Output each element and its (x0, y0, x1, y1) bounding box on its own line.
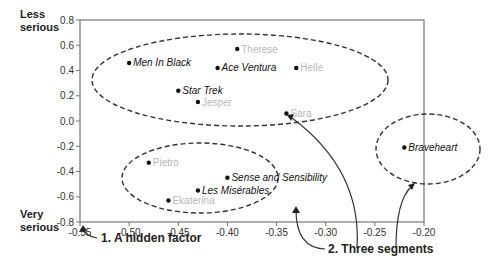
data-point: Ace Ventura (215, 62, 276, 73)
x-tick-label: -0.55 (69, 227, 92, 238)
point-marker (215, 66, 219, 70)
point-marker (402, 145, 406, 149)
arrow-head-lower-segment (292, 206, 300, 213)
point-label: Pietro (153, 157, 180, 168)
y-tick-label: -0.4 (57, 166, 75, 177)
data-point: Men In Black (127, 57, 192, 68)
y-tick-label: -0.6 (57, 191, 75, 202)
x-tick-label: -0.40 (216, 227, 239, 238)
y-tick-label: 0.0 (60, 116, 74, 127)
point-marker (196, 188, 200, 192)
annotation-three-segments: 2. Three segments (328, 242, 434, 256)
y-axis: 0.80.60.40.20.0-0.2-0.4-0.6-0.8 (57, 15, 80, 228)
point-label: Sense and Sensibility (231, 172, 328, 183)
y-tick-label: 0.2 (60, 90, 74, 101)
x-tick-label: -0.25 (363, 227, 386, 238)
y-tick-label: 0.4 (60, 65, 74, 76)
point-marker (147, 160, 151, 164)
point-label: Helle (300, 62, 323, 73)
y-label-serious-top: serious (20, 21, 59, 33)
data-point: Therese (235, 44, 278, 55)
point-marker (294, 66, 298, 70)
point-label: Men In Black (133, 57, 192, 68)
upper-segment-ellipse (92, 34, 388, 126)
point-label: Star Trek (182, 85, 223, 96)
y-tick-label: 0.8 (60, 15, 74, 26)
point-label: Sara (290, 108, 312, 119)
data-point: Sara (284, 108, 312, 119)
arrow-to-right-segment (396, 186, 412, 248)
y-tick-label: -0.2 (57, 141, 75, 152)
point-marker (225, 176, 229, 180)
annotation-hidden-factor: 1. A hidden factor (101, 231, 202, 245)
point-marker (196, 100, 200, 104)
point-label: Ekaterina (172, 195, 215, 206)
point-label: Jesper (202, 97, 233, 108)
x-tick-label: -0.35 (265, 227, 288, 238)
point-marker (235, 47, 239, 51)
point-label: Braveheart (408, 142, 458, 153)
scatter-chart: 0.80.60.40.20.0-0.2-0.4-0.6-0.8 -0.55-0.… (0, 0, 495, 268)
x-tick-label: -0.20 (413, 227, 436, 238)
point-marker (166, 198, 170, 202)
y-tick-label: -0.8 (57, 217, 75, 228)
data-point: Ekaterina (166, 195, 215, 206)
data-point: Star Trek (176, 85, 224, 96)
point-label: Ace Ventura (221, 62, 277, 73)
data-point: Sense and Sensibility (225, 172, 328, 183)
y-label-very: Very (20, 208, 44, 220)
point-marker (127, 61, 131, 65)
x-tick-label: -0.30 (314, 227, 337, 238)
y-label-serious-bottom: serious (20, 221, 59, 233)
data-point: Jesper (196, 97, 233, 108)
data-point: Braveheart (402, 142, 458, 153)
point-label: Therese (241, 44, 278, 55)
data-point: Pietro (147, 157, 180, 168)
y-label-less: Less (20, 8, 45, 20)
data-point: Helle (294, 62, 323, 73)
point-marker (176, 89, 180, 93)
y-tick-label: 0.6 (60, 40, 74, 51)
